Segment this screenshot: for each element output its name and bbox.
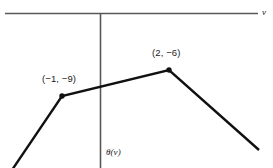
graph-canvas [0, 0, 273, 168]
piecewise-linear-graph-figure: (−1, −9) (2, −6) v θ(v) [0, 0, 273, 168]
point-b-label: (2, −6) [152, 48, 180, 58]
vertical-axis-label: θ(v) [106, 148, 121, 157]
horizontal-axis-label: v [262, 8, 266, 17]
theta-function-polyline [12, 70, 259, 168]
point-a-label: (−1, −9) [42, 74, 76, 84]
vertex-point-a [59, 93, 64, 98]
vertex-point-b [166, 67, 171, 72]
